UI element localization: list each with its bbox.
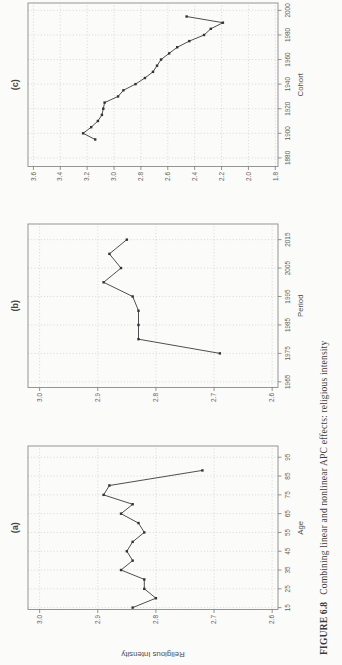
panel-c: 18801900192019401960198020001.82.02.22.4…	[0, 0, 315, 222]
panel-b-chart: 1965197519851995200520152.62.72.82.93.0(…	[0, 221, 315, 443]
svg-text:1880: 1880	[284, 150, 291, 165]
svg-text:2.8: 2.8	[152, 615, 159, 624]
svg-text:2.6: 2.6	[268, 615, 275, 624]
svg-text:1965: 1965	[284, 375, 291, 390]
svg-text:2.7: 2.7	[210, 615, 217, 624]
svg-text:2.2: 2.2	[218, 171, 225, 180]
rotated-figure-container: 1525354555657585952.62.72.82.93.0(a)AgeR…	[0, 0, 342, 665]
svg-text:2.9: 2.9	[94, 615, 101, 624]
svg-text:1900: 1900	[284, 125, 291, 140]
svg-text:2.7: 2.7	[210, 393, 217, 402]
svg-text:25: 25	[284, 585, 291, 593]
svg-text:1940: 1940	[284, 76, 291, 91]
svg-text:2.4: 2.4	[191, 171, 198, 180]
svg-text:2.6: 2.6	[164, 171, 171, 180]
svg-text:1975: 1975	[284, 346, 291, 361]
svg-text:2005: 2005	[284, 261, 291, 276]
svg-text:2.8: 2.8	[152, 393, 159, 402]
figure-caption-text: Combining linear and nonlinear APC effec…	[318, 341, 329, 595]
svg-text:1920: 1920	[284, 101, 291, 116]
svg-text:2.9: 2.9	[94, 393, 101, 402]
figure-caption-label: FIGURE 6.8	[318, 602, 329, 655]
svg-text:95: 95	[284, 453, 291, 461]
svg-text:1985: 1985	[284, 318, 291, 333]
svg-text:Age: Age	[296, 521, 305, 535]
svg-text:(c): (c)	[10, 79, 20, 90]
svg-text:45: 45	[284, 547, 291, 555]
svg-text:3.0: 3.0	[110, 171, 117, 180]
svg-text:3.4: 3.4	[56, 171, 63, 180]
svg-text:3.0: 3.0	[36, 615, 43, 624]
svg-text:1995: 1995	[284, 289, 291, 304]
svg-text:1960: 1960	[284, 52, 291, 67]
svg-text:65: 65	[284, 510, 291, 518]
svg-text:35: 35	[284, 566, 291, 574]
svg-text:1.8: 1.8	[272, 171, 279, 180]
svg-text:Cohort: Cohort	[296, 72, 305, 96]
panel-a: 1525354555657585952.62.72.82.93.0(a)AgeR…	[0, 443, 315, 665]
svg-text:2015: 2015	[284, 232, 291, 247]
svg-text:1980: 1980	[284, 27, 291, 42]
svg-text:(b): (b)	[10, 300, 20, 312]
svg-text:Religious Intensity: Religious Intensity	[121, 650, 184, 659]
svg-text:75: 75	[284, 491, 291, 499]
panel-a-chart: 1525354555657585952.62.72.82.93.0(a)AgeR…	[0, 443, 315, 665]
svg-text:3.0: 3.0	[36, 393, 43, 402]
svg-text:15: 15	[284, 604, 291, 612]
svg-text:2000: 2000	[284, 3, 291, 18]
svg-text:85: 85	[284, 472, 291, 480]
svg-text:Period: Period	[296, 295, 305, 318]
svg-text:2.6: 2.6	[268, 393, 275, 402]
panel-b: 1965197519851995200520152.62.72.82.93.0(…	[0, 221, 315, 443]
svg-text:3.6: 3.6	[30, 171, 37, 180]
svg-text:3.2: 3.2	[83, 171, 90, 180]
svg-text:55: 55	[284, 528, 291, 536]
svg-text:2.0: 2.0	[245, 171, 252, 180]
figure-caption: FIGURE 6.8Combining linear and nonlinear…	[317, 15, 330, 655]
svg-text:(a): (a)	[10, 522, 20, 533]
scanned-book-page: 1525354555657585952.62.72.82.93.0(a)AgeR…	[0, 0, 342, 665]
panel-c-chart: 18801900192019401960198020001.82.02.22.4…	[0, 0, 315, 222]
svg-text:2.8: 2.8	[137, 171, 144, 180]
